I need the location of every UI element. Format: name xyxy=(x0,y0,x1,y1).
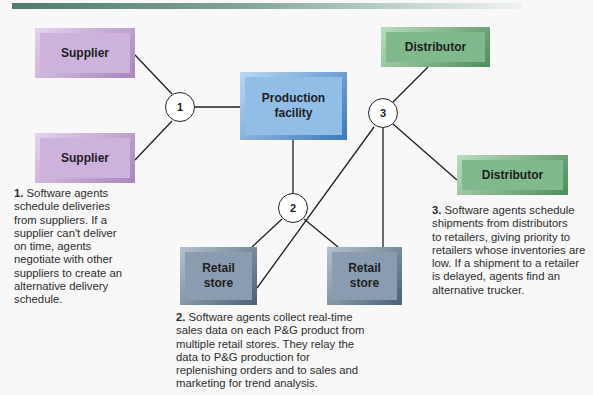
step-node-3: 3 xyxy=(368,98,398,128)
retail-label: Retailstore xyxy=(348,261,381,291)
note-line: Software agents collect real-time xyxy=(189,311,353,323)
note-line: replenishing orders and to sales and xyxy=(176,364,358,376)
note-line: data to P&G production for xyxy=(176,351,310,363)
distributor-box-right: Distributor xyxy=(457,155,568,195)
production-facility-box: Productionfacility xyxy=(240,72,347,140)
line-node3-distributor-right xyxy=(393,124,457,180)
note-line: alternative trucker. xyxy=(432,284,524,296)
note-number: 1. xyxy=(14,187,23,199)
note-line: Software agents xyxy=(27,187,109,199)
line-node3-distributor-top xyxy=(393,67,428,102)
note-line: schedule deliveries xyxy=(14,200,110,212)
note-line: multiple retail stores. They relay the xyxy=(176,338,354,350)
retail-store-box-right: Retailstore xyxy=(327,247,402,305)
retail-label-line1: Retail xyxy=(202,261,235,275)
distributor-label: Distributor xyxy=(482,168,543,183)
line-node2-retail-left xyxy=(252,219,282,247)
retail-label-line2: store xyxy=(204,276,233,290)
retail-label: Retailstore xyxy=(202,261,235,291)
note-line: sales data on each P&G product from xyxy=(176,324,364,336)
note-number: 2. xyxy=(176,311,185,323)
note-line: shipments from distributors xyxy=(432,217,568,229)
line-supplier-top-node1 xyxy=(135,55,172,94)
production-label-line2: facility xyxy=(274,106,312,120)
supplier-label: Supplier xyxy=(61,46,109,61)
note-number: 3. xyxy=(432,204,441,216)
distributor-label: Distributor xyxy=(405,40,466,55)
note-line: to retailers, giving priority to xyxy=(432,231,570,243)
retail-store-box-left: Retailstore xyxy=(180,247,257,305)
step-node-1: 1 xyxy=(165,92,195,122)
retail-label-line1: Retail xyxy=(348,261,381,275)
note-line: negotiate with other xyxy=(14,253,113,265)
note-line: schedule. xyxy=(14,293,62,305)
note-line: from suppliers. If a xyxy=(14,214,107,226)
supplier-box-bottom: Supplier xyxy=(35,133,135,183)
note-step-3: 3. Software agents schedule shipments fr… xyxy=(432,204,592,297)
retail-label-line2: store xyxy=(350,276,379,290)
note-line: alternative delivery xyxy=(14,280,108,292)
note-line: on time, agents xyxy=(14,240,91,252)
note-line: supplier can't deliver xyxy=(14,227,117,239)
production-label-line1: Production xyxy=(262,91,325,105)
supplier-label: Supplier xyxy=(61,151,109,166)
note-step-2: 2. Software agents collect real-time sal… xyxy=(176,311,416,391)
note-step-1: 1. Software agents schedule deliveries f… xyxy=(14,187,164,307)
supplier-box-top: Supplier xyxy=(35,28,135,78)
step-node-2: 2 xyxy=(278,193,308,223)
line-node2-retail-right xyxy=(304,219,338,247)
distributor-box-top: Distributor xyxy=(381,27,490,67)
note-line: suppliers to create an xyxy=(14,267,122,279)
note-line: low. If a shipment to a retailer xyxy=(432,257,579,269)
note-line: is delayed, agents find an xyxy=(432,270,560,282)
note-line: marketing for trend analysis. xyxy=(176,377,318,389)
production-label: Productionfacility xyxy=(262,91,325,121)
note-line: Software agents schedule xyxy=(445,204,575,216)
line-supplier-bottom-node1 xyxy=(135,121,172,160)
note-line: retailers whose inventories are xyxy=(432,244,585,256)
